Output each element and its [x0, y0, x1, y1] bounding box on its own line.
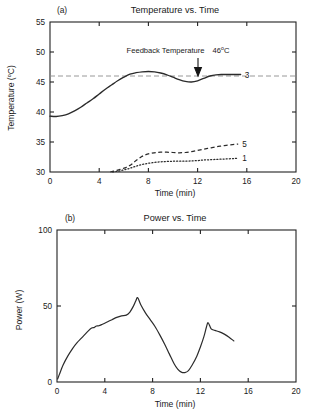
y-tick-label: 55: [36, 18, 46, 27]
y-tick-label: 100: [38, 226, 52, 235]
feedback-annotation-unit: C: [224, 46, 230, 55]
x-tick-label: 0: [48, 177, 53, 186]
chart-b-curves: [58, 298, 234, 379]
chart-a-curves: [50, 72, 241, 173]
plot-frame: [50, 22, 296, 172]
series-1: [113, 158, 238, 172]
panel-a-title: Temperature vs. Time: [131, 5, 219, 15]
x-tick-label: 0: [55, 387, 60, 396]
y-tick-label: 30: [36, 168, 46, 177]
panel-power-vs-time: (b) Power vs. Time 048121620050100 Time …: [0, 205, 315, 417]
temperature-chart-svg: (a) Temperature vs. Time 048121620303540…: [0, 0, 315, 205]
x-tick-label: 4: [97, 177, 102, 186]
x-tick-label: 16: [242, 177, 252, 186]
panel-a-label: (a): [57, 5, 67, 15]
series-5: [110, 144, 238, 172]
figure-container: (a) Temperature vs. Time 048121620303540…: [0, 0, 315, 417]
panel-b-ylabel: Power (W): [14, 290, 24, 331]
x-tick-label: 12: [193, 177, 203, 186]
x-tick-label: 8: [150, 387, 155, 396]
panel-b-xlabel: Time (min): [155, 399, 196, 409]
chart-b-axes: [57, 230, 296, 382]
y-tick-label: 50: [43, 302, 53, 311]
panel-b-title: Power vs. Time: [144, 213, 207, 223]
x-tick-label: 4: [103, 387, 108, 396]
power-chart-svg: (b) Power vs. Time 048121620050100 Time …: [0, 205, 315, 417]
chart-b-titles: (b) Power vs. Time: [65, 213, 207, 223]
x-tick-label: 8: [146, 177, 151, 186]
y-tick-label: 50: [36, 48, 46, 57]
panel-temperature-vs-time: (a) Temperature vs. Time 048121620303540…: [0, 0, 315, 205]
chart-a-titles: (a) Temperature vs. Time: [57, 5, 219, 15]
x-tick-label: 12: [196, 387, 206, 396]
panel-a-ylabel: Temperature (oC): [6, 65, 16, 131]
feedback-annotation-text: Feedback Temperature: [127, 46, 205, 55]
series-3: [50, 72, 241, 117]
x-tick-label: 20: [291, 387, 301, 396]
chart-b-tick-labels: 048121620050100: [38, 226, 301, 396]
series-label-1: 1: [242, 154, 247, 163]
y-tick-label: 35: [36, 138, 46, 147]
y-tick-label: 40: [36, 108, 46, 117]
series-label-3: 3: [245, 71, 250, 80]
feedback-annotation-value: 46: [213, 46, 221, 55]
x-tick-label: 20: [291, 177, 301, 186]
y-tick-label: 0: [47, 378, 52, 387]
x-tick-label: 16: [244, 387, 254, 396]
plot-frame: [57, 230, 296, 382]
chart-a-axes: [50, 22, 296, 172]
chart-a-curve-labels: 351: [242, 71, 249, 164]
feedback-annotation: Feedback Temperature46oC: [127, 45, 230, 55]
down-arrow-icon: [195, 58, 202, 76]
panel-b-label: (b): [65, 213, 75, 223]
series-label-5: 5: [242, 140, 247, 149]
panel-a-xlabel: Time (min): [155, 188, 196, 198]
series-Power: [58, 298, 234, 379]
y-tick-label: 45: [36, 78, 46, 87]
